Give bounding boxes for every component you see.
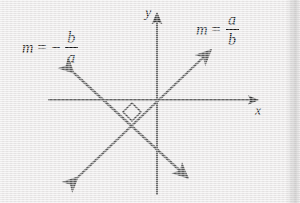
y-axis-label: y <box>145 6 151 20</box>
negative-slope-denominator: a <box>65 48 77 66</box>
positive-slope-line <box>78 50 211 177</box>
positive-slope-equals: = <box>212 22 221 38</box>
x-axis-label: x <box>255 104 261 118</box>
positive-slope-label: m = a b <box>196 12 240 48</box>
perpendicular-slopes-figure: y x m = − b a m = a b <box>0 0 300 203</box>
negative-slope-label: m = − b a <box>22 30 79 66</box>
positive-slope-denominator: b <box>226 30 238 48</box>
negative-slope-fraction: b a <box>65 30 78 66</box>
negative-slope-numerator: b <box>65 30 77 47</box>
negative-slope-minus: − <box>52 40 61 56</box>
positive-slope-numerator: a <box>226 12 238 29</box>
positive-slope-m: m <box>196 22 208 38</box>
positive-slope-fraction: a b <box>226 12 239 48</box>
negative-slope-equals: = <box>38 40 47 56</box>
negative-slope-m: m <box>22 40 34 56</box>
